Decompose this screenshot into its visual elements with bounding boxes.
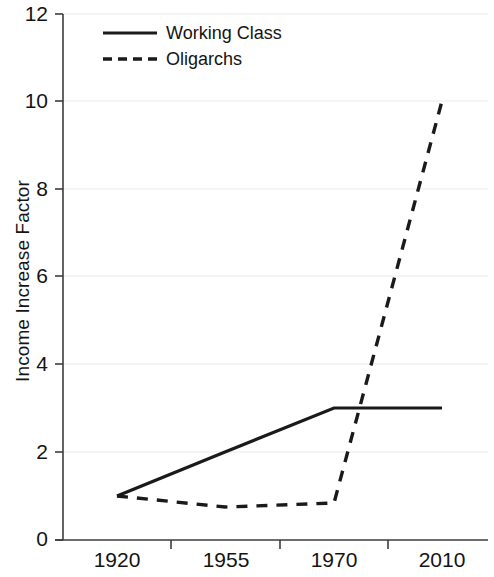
plot-area xyxy=(0,0,494,577)
y-axis-ticks xyxy=(55,14,63,540)
x-axis-ticks xyxy=(171,540,388,549)
series-line-oligarchs xyxy=(117,101,442,507)
gridlines xyxy=(63,14,488,452)
line-chart: Income Increase Factor 12 10 8 6 4 2 0 1… xyxy=(0,0,494,577)
